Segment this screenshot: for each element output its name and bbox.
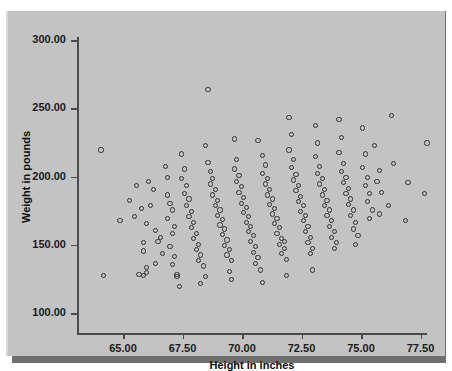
data-point <box>267 187 272 192</box>
data-point <box>239 184 244 189</box>
data-point <box>377 168 382 173</box>
data-point <box>234 157 239 162</box>
data-point <box>203 274 208 279</box>
data-point <box>274 231 279 236</box>
data-point <box>170 231 175 236</box>
x-tick-mark <box>302 333 304 339</box>
data-point <box>277 242 282 247</box>
y-axis-title: Weight in pounds <box>20 107 32 247</box>
data-point <box>134 183 139 188</box>
data-point <box>286 147 291 152</box>
data-point <box>334 240 339 245</box>
data-point <box>313 123 318 128</box>
data-point <box>255 255 260 260</box>
data-point <box>343 191 348 196</box>
y-tick-label: 300.00 <box>8 33 66 45</box>
data-point <box>253 244 258 249</box>
data-point <box>244 205 249 210</box>
data-point <box>186 214 191 219</box>
data-point <box>217 207 222 212</box>
data-point <box>208 181 213 186</box>
data-point <box>255 138 260 143</box>
data-point <box>132 214 137 219</box>
data-point <box>422 191 427 196</box>
data-point <box>339 169 344 174</box>
y-tick-label: 100.00 <box>8 306 66 318</box>
data-point <box>196 258 201 263</box>
data-point <box>184 203 189 208</box>
data-point <box>379 190 384 195</box>
data-point <box>153 261 158 266</box>
data-point <box>136 272 141 277</box>
data-point <box>160 251 165 256</box>
scatter-chart: 100.00150.00200.00250.00300.00 65.0067.5… <box>8 11 445 356</box>
data-point <box>291 177 296 182</box>
data-point <box>146 179 151 184</box>
data-point <box>332 229 337 234</box>
data-point <box>391 161 396 166</box>
data-point <box>291 157 296 162</box>
x-tick-mark <box>361 333 363 339</box>
data-point <box>367 191 372 196</box>
data-point <box>248 239 253 244</box>
x-tick-label: 65.00 <box>109 342 137 354</box>
data-point <box>101 273 106 278</box>
data-point <box>186 196 191 201</box>
data-point <box>179 151 184 156</box>
data-point <box>272 206 277 211</box>
y-tick-label-wrap: 150.00 <box>8 238 66 250</box>
data-point <box>313 154 318 159</box>
data-point <box>263 162 268 167</box>
data-point <box>353 220 358 225</box>
data-point <box>236 173 241 178</box>
data-point <box>305 224 310 229</box>
data-point <box>327 224 332 229</box>
data-point <box>403 218 408 223</box>
data-point <box>170 262 175 267</box>
data-point <box>322 203 327 208</box>
data-point <box>372 143 377 148</box>
x-tick-mark <box>123 333 125 339</box>
data-point <box>348 196 353 201</box>
data-point <box>203 143 208 148</box>
data-point <box>279 236 284 241</box>
data-point <box>172 224 177 229</box>
data-point <box>377 211 382 216</box>
data-point <box>144 265 149 270</box>
data-point <box>189 209 194 214</box>
data-point <box>163 164 168 169</box>
data-point <box>289 165 294 170</box>
y-tick-mark <box>71 313 77 315</box>
data-point <box>289 132 294 137</box>
data-point <box>246 229 251 234</box>
data-point <box>165 175 170 180</box>
data-point <box>172 254 177 259</box>
data-point <box>317 164 322 169</box>
data-point <box>310 246 315 251</box>
data-point <box>196 242 201 247</box>
data-point <box>165 216 170 221</box>
data-point <box>260 280 265 285</box>
data-point <box>315 140 320 145</box>
data-point <box>210 192 215 197</box>
x-tick-label: 72.50 <box>288 342 316 354</box>
data-point <box>158 235 163 240</box>
data-point <box>374 179 379 184</box>
data-point <box>282 246 287 251</box>
data-point <box>336 150 341 155</box>
data-point-layer <box>8 11 445 356</box>
data-point <box>153 228 158 233</box>
data-point <box>148 203 153 208</box>
data-point <box>360 165 365 170</box>
data-point <box>308 235 313 240</box>
data-point <box>263 181 268 186</box>
data-point <box>293 172 298 177</box>
data-point <box>201 263 206 268</box>
data-point <box>284 257 289 262</box>
data-point <box>265 192 270 197</box>
data-point <box>329 218 334 223</box>
data-point <box>353 242 358 247</box>
y-tick-label-wrap: 300.00 <box>8 33 66 45</box>
data-point <box>370 207 375 212</box>
data-point <box>174 272 179 277</box>
